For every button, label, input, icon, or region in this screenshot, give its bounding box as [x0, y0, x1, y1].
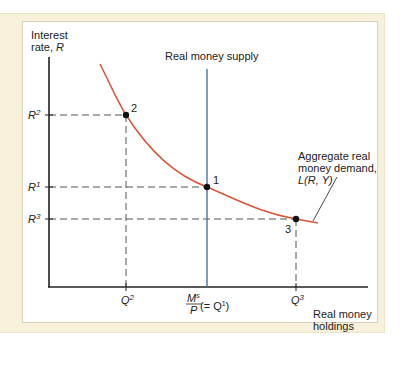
svg-text:(= Q1): (= Q1)	[200, 300, 229, 312]
x-tick-label-q3: Q3	[291, 293, 305, 306]
x-axis-label-line1: Real money	[313, 308, 372, 320]
chart-svg: Interest rate, R Real money holdings Rea…	[0, 0, 402, 368]
y-tick-label-r3: R3	[28, 212, 41, 225]
money-supply-label: Real money supply	[165, 50, 259, 62]
demand-label-line3: L(R, Y)	[298, 174, 333, 186]
x-axis-label-line2: holdings	[313, 320, 354, 332]
demand-label-line1: Aggregate real	[298, 150, 370, 162]
y-axis-label-line1: Interest	[31, 29, 68, 41]
point-1	[204, 184, 210, 190]
svg-text:Ms: Ms	[187, 292, 200, 304]
point-2-label: 2	[131, 102, 137, 114]
point-3-label: 3	[285, 223, 291, 235]
money-demand-curve	[100, 64, 318, 223]
y-axis-label-line2: rate, R	[31, 41, 64, 53]
x-tick-label-supply: Ms P (= Q1)	[186, 292, 229, 316]
point-2	[123, 112, 129, 118]
point-3	[293, 216, 299, 222]
y-tick-label-r2: R2	[28, 108, 41, 121]
y-tick-label-r1: R1	[28, 180, 40, 193]
demand-label-line2: money demand,	[298, 162, 377, 174]
svg-text:P: P	[190, 304, 198, 316]
x-tick-label-q2: Q2	[121, 293, 135, 306]
point-1-label: 1	[213, 174, 219, 186]
